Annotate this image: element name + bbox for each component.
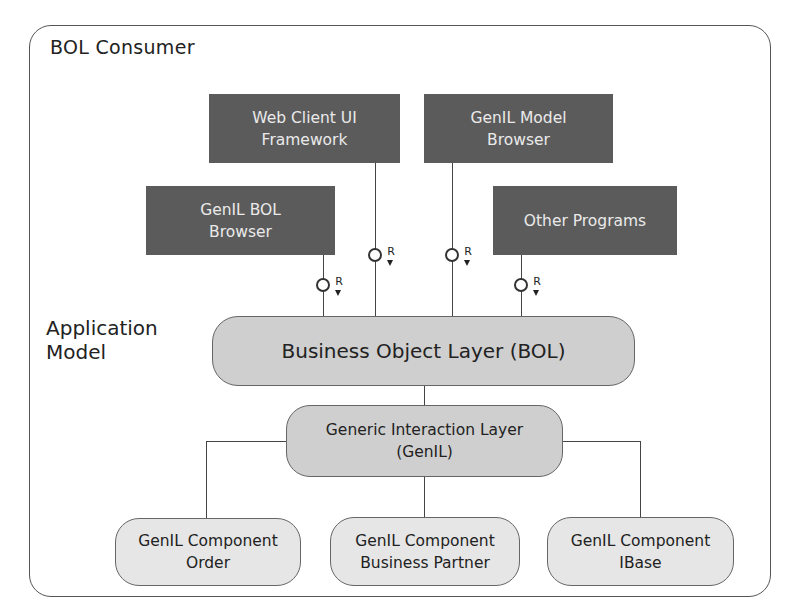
application-model-label: Application Model	[46, 316, 158, 364]
component-ibase-line2: IBase	[571, 552, 711, 574]
connector-genil-order-h	[206, 441, 287, 442]
genil-component-ibase: GenIL Component IBase	[547, 517, 734, 586]
model-browser-line1: GenIL Model	[470, 107, 566, 129]
bol-browser-line1: GenIL BOL	[200, 199, 281, 221]
component-ibase-line1: GenIL Component	[571, 530, 711, 552]
arrow-down-icon	[533, 290, 539, 296]
other-programs-label: Other Programs	[524, 210, 646, 232]
component-bp-line1: GenIL Component	[355, 530, 495, 552]
arrow-down-icon	[387, 260, 393, 266]
web-client-line2: Framework	[252, 129, 356, 151]
side-label-line2: Model	[46, 340, 158, 364]
model-browser-line2: Browser	[470, 129, 566, 151]
container-title: BOL Consumer	[50, 36, 195, 58]
genil-bol-browser-box: GenIL BOL Browser	[146, 186, 335, 255]
genil-component-order: GenIL Component Order	[115, 518, 301, 586]
other-programs-box: Other Programs	[493, 186, 677, 255]
interface-r-label: R	[532, 276, 542, 287]
genil-line1: Generic Interaction Layer	[326, 419, 523, 441]
component-order-line2: Order	[138, 552, 278, 574]
interface-r-label: R	[386, 246, 396, 257]
genil-component-business-partner: GenIL Component Business Partner	[330, 517, 520, 586]
interface-r-label: R	[334, 276, 344, 287]
connector-genil-order-v	[206, 441, 207, 519]
arrow-down-icon	[335, 290, 341, 296]
interface-r-label: R	[463, 246, 473, 257]
connector-genil-ibase-h	[562, 441, 641, 442]
genil-line2: (GenIL)	[326, 441, 523, 463]
side-label-line1: Application	[46, 316, 158, 340]
bol-consumer-container	[29, 25, 771, 597]
connector-web-client	[375, 163, 376, 317]
arrow-down-icon	[464, 260, 470, 266]
generic-interaction-layer: Generic Interaction Layer (GenIL)	[286, 405, 563, 477]
interface-circle-icon	[514, 278, 528, 292]
connector-genil-business-partner	[424, 476, 425, 518]
interface-circle-icon	[368, 248, 382, 262]
interface-circle-icon	[445, 248, 459, 262]
web-client-ui-framework-box: Web Client UI Framework	[209, 94, 400, 163]
genil-model-browser-box: GenIL Model Browser	[424, 94, 613, 163]
connector-bol-genil	[424, 385, 425, 406]
interface-circle-icon	[316, 278, 330, 292]
bol-browser-line2: Browser	[200, 221, 281, 243]
component-bp-line2: Business Partner	[355, 552, 495, 574]
web-client-line1: Web Client UI	[252, 107, 356, 129]
connector-genil-ibase-v	[640, 441, 641, 518]
business-object-layer: Business Object Layer (BOL)	[212, 316, 635, 386]
component-order-line1: GenIL Component	[138, 530, 278, 552]
bol-label: Business Object Layer (BOL)	[281, 339, 565, 363]
connector-model-browser	[452, 163, 453, 317]
